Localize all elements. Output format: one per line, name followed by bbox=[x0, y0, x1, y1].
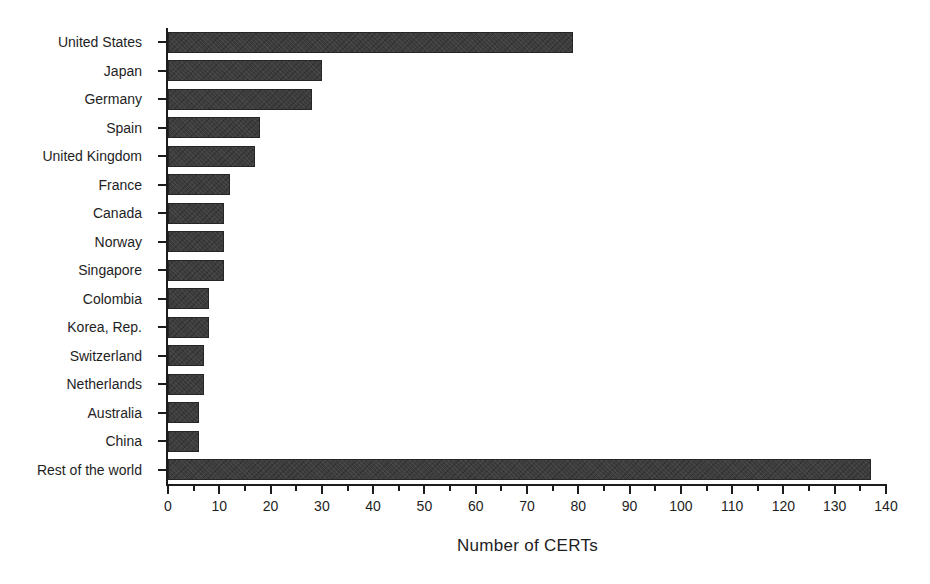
x-axis-major-tick bbox=[782, 486, 784, 494]
x-axis-major-tick bbox=[475, 486, 477, 494]
x-axis-minor-tick bbox=[603, 486, 605, 491]
x-axis-minor-tick bbox=[654, 486, 656, 491]
x-axis-major-tick bbox=[885, 486, 887, 494]
category-label: United Kingdom bbox=[0, 142, 142, 171]
bar bbox=[168, 374, 204, 395]
bar-row: Korea, Rep. bbox=[168, 313, 887, 342]
x-axis-minor-tick bbox=[706, 486, 708, 491]
category-label: Switzerland bbox=[0, 342, 142, 371]
y-axis-tick bbox=[158, 241, 166, 243]
x-axis-major-tick bbox=[834, 486, 836, 494]
bar bbox=[168, 174, 230, 195]
x-axis-major-tick bbox=[577, 486, 579, 494]
y-axis-tick bbox=[158, 412, 166, 414]
plot-area: United StatesJapanGermanySpainUnited Kin… bbox=[166, 28, 887, 486]
category-label: Norway bbox=[0, 228, 142, 257]
bar bbox=[168, 288, 209, 309]
y-axis-tick bbox=[158, 41, 166, 43]
bar bbox=[168, 203, 224, 224]
x-axis: 0102030405060708090100110120130140 bbox=[168, 484, 887, 524]
bar-row: Switzerland bbox=[168, 342, 887, 371]
bar-row: Norway bbox=[168, 228, 887, 257]
bar-row: Canada bbox=[168, 199, 887, 228]
x-axis-minor-tick bbox=[859, 486, 861, 491]
bar bbox=[168, 60, 322, 81]
x-axis-minor-tick bbox=[295, 486, 297, 491]
bar-row: Rest of the world bbox=[168, 456, 887, 485]
bar-row: Germany bbox=[168, 85, 887, 114]
bar-row: Singapore bbox=[168, 256, 887, 285]
x-axis-minor-tick bbox=[347, 486, 349, 491]
x-axis-major-tick bbox=[423, 486, 425, 494]
x-axis-minor-tick bbox=[757, 486, 759, 491]
category-label: Spain bbox=[0, 114, 142, 143]
bar bbox=[168, 402, 199, 423]
bar-rows: United StatesJapanGermanySpainUnited Kin… bbox=[168, 28, 887, 484]
bar-row: United Kingdom bbox=[168, 142, 887, 171]
y-axis-tick bbox=[158, 326, 166, 328]
bar bbox=[168, 231, 224, 252]
bar bbox=[168, 117, 260, 138]
bar bbox=[168, 260, 224, 281]
x-axis-minor-tick bbox=[808, 486, 810, 491]
category-label: China bbox=[0, 427, 142, 456]
x-axis-major-tick bbox=[270, 486, 272, 494]
bar bbox=[168, 459, 871, 480]
bar-row: Japan bbox=[168, 57, 887, 86]
x-axis-minor-tick bbox=[552, 486, 554, 491]
y-axis-tick bbox=[158, 269, 166, 271]
x-axis-minor-tick bbox=[500, 486, 502, 491]
y-axis-tick bbox=[158, 383, 166, 385]
y-axis-tick bbox=[158, 127, 166, 129]
chart-canvas: United StatesJapanGermanySpainUnited Kin… bbox=[0, 0, 930, 584]
x-axis-minor-tick bbox=[449, 486, 451, 491]
category-label: Germany bbox=[0, 85, 142, 114]
bar-row: Colombia bbox=[168, 285, 887, 314]
x-axis-major-tick bbox=[372, 486, 374, 494]
y-axis-tick bbox=[158, 184, 166, 186]
x-axis-title: Number of CERTs bbox=[168, 536, 887, 556]
x-axis-major-tick bbox=[167, 486, 169, 494]
bar-row: China bbox=[168, 427, 887, 456]
category-label: Singapore bbox=[0, 256, 142, 285]
category-label: France bbox=[0, 171, 142, 200]
category-label: Netherlands bbox=[0, 370, 142, 399]
y-axis-tick bbox=[158, 70, 166, 72]
y-axis-tick bbox=[158, 98, 166, 100]
y-axis-tick bbox=[158, 440, 166, 442]
x-axis-minor-tick bbox=[193, 486, 195, 491]
bar-row: Australia bbox=[168, 399, 887, 428]
y-axis-tick bbox=[158, 212, 166, 214]
category-label: Korea, Rep. bbox=[0, 313, 142, 342]
y-axis-tick bbox=[158, 298, 166, 300]
bar bbox=[168, 345, 204, 366]
x-axis-major-tick bbox=[526, 486, 528, 494]
bar bbox=[168, 32, 573, 53]
category-label: Colombia bbox=[0, 285, 142, 314]
bar-row: Netherlands bbox=[168, 370, 887, 399]
x-axis-major-tick bbox=[680, 486, 682, 494]
x-axis-major-tick bbox=[218, 486, 220, 494]
category-label: Canada bbox=[0, 199, 142, 228]
category-label: Rest of the world bbox=[0, 456, 142, 485]
x-axis-tick-label: 140 bbox=[856, 498, 916, 514]
bar bbox=[168, 89, 312, 110]
bar-row: United States bbox=[168, 28, 887, 57]
x-axis-major-tick bbox=[321, 486, 323, 494]
bar bbox=[168, 317, 209, 338]
bar-row: France bbox=[168, 171, 887, 200]
x-axis-minor-tick bbox=[244, 486, 246, 491]
x-axis-minor-tick bbox=[398, 486, 400, 491]
category-label: Japan bbox=[0, 57, 142, 86]
y-axis-tick bbox=[158, 155, 166, 157]
x-axis-major-tick bbox=[731, 486, 733, 494]
bar bbox=[168, 431, 199, 452]
y-axis-tick bbox=[158, 469, 166, 471]
bar-row: Spain bbox=[168, 114, 887, 143]
bar bbox=[168, 146, 255, 167]
category-label: United States bbox=[0, 28, 142, 57]
x-axis-major-tick bbox=[629, 486, 631, 494]
category-label: Australia bbox=[0, 399, 142, 428]
y-axis-tick bbox=[158, 355, 166, 357]
